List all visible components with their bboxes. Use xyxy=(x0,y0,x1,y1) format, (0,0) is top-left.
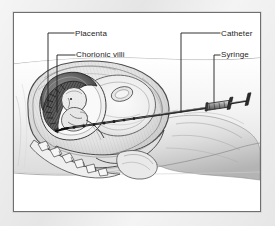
label-chorionic-villi: Chorionic villi xyxy=(76,50,125,59)
label-placenta: Placenta xyxy=(75,29,107,38)
label-catheter: Catheter xyxy=(221,29,252,38)
figure-root: Placenta Chorionic villi Catheter Syring… xyxy=(0,0,275,226)
label-syringe: Syringe xyxy=(221,50,249,59)
